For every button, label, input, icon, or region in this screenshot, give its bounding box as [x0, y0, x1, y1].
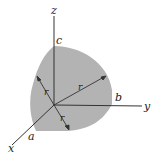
b-intercept-label: b: [115, 91, 122, 104]
radius-label-upper-left: r: [44, 87, 49, 97]
y-axis-label: y: [143, 100, 151, 113]
ellipsoid-octant-diagram: z y x c b a r r r: [0, 0, 160, 161]
radius-label-right: r: [78, 82, 83, 92]
x-axis-label: x: [8, 142, 15, 155]
radius-label-lower: r: [60, 113, 65, 123]
octant-surface: [30, 46, 112, 131]
a-intercept-label: a: [28, 130, 35, 143]
c-intercept-label: c: [56, 34, 62, 47]
z-axis-label: z: [50, 4, 57, 17]
